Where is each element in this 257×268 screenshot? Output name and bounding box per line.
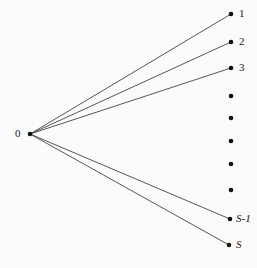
leaf-node [229,94,234,99]
root-node [28,132,33,137]
leaf-node [229,40,234,45]
star-graph [0,0,257,268]
leaf-node [229,162,234,167]
leaf-node [229,116,234,121]
leaf-node [228,217,233,222]
edge [30,68,231,134]
edge [30,42,231,134]
edge [30,134,230,219]
leaf-node [229,139,234,144]
leaf-label-1: 1 [239,8,245,19]
leaf-node [227,243,232,248]
leaf-label-s: S [236,239,242,250]
root-label: 0 [15,128,21,139]
leaf-node [229,12,234,17]
leaf-label-3: 3 [239,62,245,73]
edge [30,14,231,134]
leaf-node [229,66,234,71]
leaf-label-2: 2 [239,36,245,47]
leaf-node [229,188,234,193]
edge [30,134,229,245]
leaf-label-s-minus-1: S-1 [236,213,251,224]
